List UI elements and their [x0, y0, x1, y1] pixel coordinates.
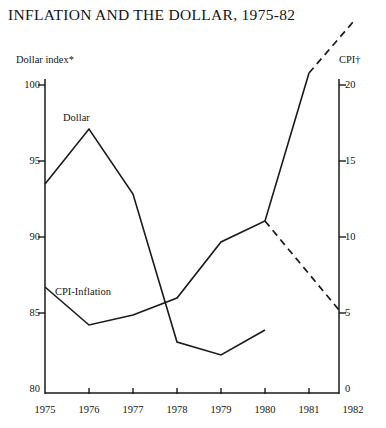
series-line-cpi-inflation	[45, 73, 309, 325]
series-line-dollar	[45, 129, 265, 355]
chart-figure: INFLATION AND THE DOLLAR, 1975-82 Dollar…	[0, 0, 386, 428]
series-line-cpi-projection-up	[309, 22, 353, 73]
series-line-cpi-projection-down	[265, 221, 339, 310]
chart-plot-area	[0, 0, 386, 428]
